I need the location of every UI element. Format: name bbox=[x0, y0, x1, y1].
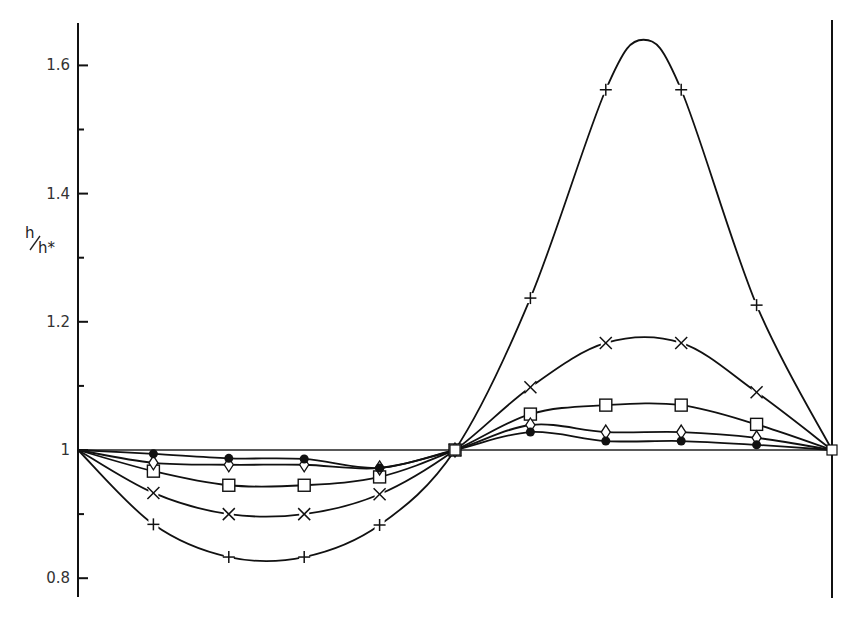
marker-plus bbox=[147, 518, 159, 530]
marker-plus bbox=[524, 292, 536, 304]
marker-dot bbox=[300, 454, 309, 463]
curve-plus bbox=[78, 40, 832, 561]
data-curves bbox=[78, 40, 832, 561]
marker-plus bbox=[600, 84, 612, 96]
ylabel-numerator: h bbox=[25, 224, 35, 242]
marker-dot bbox=[601, 437, 610, 446]
marker-dot bbox=[224, 454, 233, 463]
chart-canvas: 0.811.21.41.6 h h* bbox=[0, 0, 855, 617]
curve-cross bbox=[78, 337, 832, 517]
marker-cross bbox=[374, 488, 386, 500]
marker-cross bbox=[751, 386, 763, 398]
marker-cross bbox=[600, 337, 612, 349]
marker-dot bbox=[526, 428, 535, 437]
crossing-marker bbox=[450, 445, 460, 455]
marker-plus bbox=[675, 84, 687, 96]
marker-square bbox=[751, 418, 763, 430]
marker-cross bbox=[147, 487, 159, 499]
y-tick-label: 1.2 bbox=[46, 313, 70, 331]
y-tick-label: 1 bbox=[60, 441, 70, 459]
crossing-marker bbox=[827, 445, 837, 455]
marker-cross bbox=[223, 508, 235, 520]
marker-cross bbox=[524, 381, 536, 393]
y-tick-label: 1.4 bbox=[46, 185, 70, 203]
marker-dot bbox=[677, 437, 686, 446]
marker-plus bbox=[298, 551, 310, 563]
marker-square bbox=[675, 399, 687, 411]
marker-plus bbox=[374, 519, 386, 531]
marker-cross bbox=[298, 508, 310, 520]
marker-dot bbox=[375, 463, 384, 472]
marker-cross bbox=[675, 337, 687, 349]
marker-dot bbox=[149, 449, 158, 458]
y-axis-label: h h* bbox=[25, 224, 56, 257]
marker-square bbox=[600, 399, 612, 411]
axes: 0.811.21.41.6 bbox=[46, 20, 832, 598]
marker-plus bbox=[223, 551, 235, 563]
data-markers bbox=[147, 84, 837, 563]
marker-square bbox=[223, 479, 235, 491]
ylabel-denominator: h* bbox=[38, 239, 56, 257]
y-tick-label: 0.8 bbox=[46, 569, 70, 587]
marker-square bbox=[298, 479, 310, 491]
marker-plus bbox=[751, 299, 763, 311]
y-tick-label: 1.6 bbox=[46, 56, 70, 74]
marker-dot bbox=[752, 440, 761, 449]
